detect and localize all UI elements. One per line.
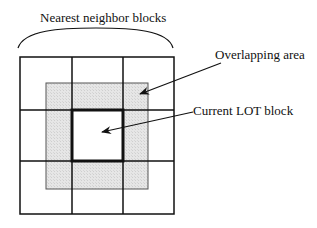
current-lot-block-fill xyxy=(72,110,123,161)
overlap-arrow xyxy=(140,63,221,94)
overlapping-area-label: Overlapping area xyxy=(215,48,305,61)
neighbor-bracket-arc xyxy=(18,28,173,48)
current-lot-block-label: Current LOT block xyxy=(193,104,293,117)
diagram-canvas: Nearest neighbor blocks Overlapping area… xyxy=(0,0,317,228)
nearest-neighbor-title: Nearest neighbor blocks xyxy=(40,11,166,24)
